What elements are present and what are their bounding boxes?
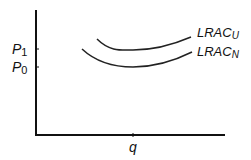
label-p1: P1 <box>12 41 27 58</box>
label-q: q <box>129 139 137 155</box>
lrac-chart: P1 P0 q LRACU LRACN <box>0 0 251 160</box>
curve-lracn <box>82 49 192 67</box>
label-lracn: LRACN <box>197 44 240 60</box>
curve-lracu <box>97 37 191 50</box>
label-p0: P0 <box>12 59 27 76</box>
label-lracu: LRACU <box>197 25 240 41</box>
